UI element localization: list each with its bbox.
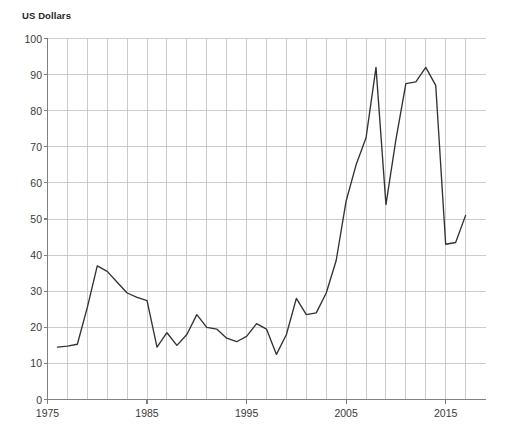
x-tick-label: 2005: [334, 407, 357, 419]
line-chart: US Dollars 1009080706050403020100 197519…: [0, 0, 506, 433]
x-tick-label: 1975: [36, 407, 59, 419]
x-tick-label: 1985: [135, 407, 158, 419]
x-axis-tick-labels: 19751985199520052015: [0, 0, 506, 433]
x-tick-label: 1995: [235, 407, 258, 419]
x-tick-label: 2015: [434, 407, 457, 419]
